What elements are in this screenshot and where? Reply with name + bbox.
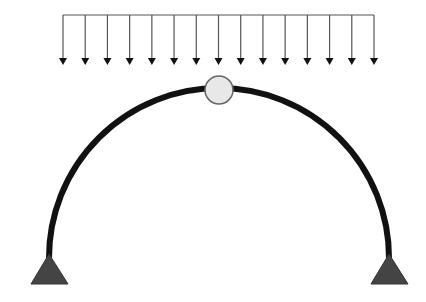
crown-hinge-icon xyxy=(205,76,233,104)
load-arrow-icon xyxy=(237,15,245,65)
left-pin-support-icon xyxy=(31,254,68,284)
arch-member xyxy=(49,88,389,258)
load-arrow-icon xyxy=(192,15,200,65)
load-arrow-icon xyxy=(259,15,267,65)
load-arrow-icon xyxy=(348,15,356,65)
load-arrow-icon xyxy=(126,15,134,65)
right-pin-support-icon xyxy=(371,254,408,284)
load-arrow-icon xyxy=(215,15,223,65)
load-arrow-icon xyxy=(103,15,111,65)
load-arrow-icon xyxy=(303,15,311,65)
load-arrow-icon xyxy=(170,15,178,65)
load-arrow-icon xyxy=(59,15,67,65)
distributed-load xyxy=(59,15,378,65)
supports xyxy=(31,254,408,284)
load-arrow-icon xyxy=(326,15,334,65)
three-hinged-arch-diagram xyxy=(0,0,426,302)
load-arrow-icon xyxy=(370,15,378,65)
load-arrow-icon xyxy=(148,15,156,65)
load-arrow-icon xyxy=(281,15,289,65)
load-arrow-icon xyxy=(81,15,89,65)
